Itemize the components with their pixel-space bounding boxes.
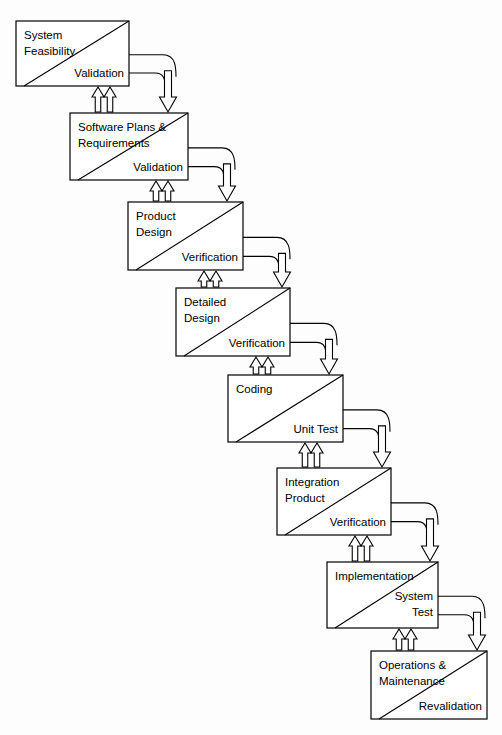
feedback-up-arrow-1 — [299, 443, 311, 467]
stage-gate-label: Validation — [133, 161, 183, 173]
feedback-up-arrow-2 — [361, 536, 373, 561]
stage-gate-label: Validation — [74, 67, 124, 79]
forward-down-arrow — [422, 519, 439, 561]
stage-box-detailed-design[interactable]: DetailedDesignVerification — [176, 288, 290, 356]
forward-curve-lower — [391, 522, 427, 536]
stage-name-line: Coding — [236, 383, 272, 395]
stage-gate-label: Verification — [182, 251, 238, 263]
stage-name-line: System — [24, 29, 62, 41]
forward-curve-lower — [188, 167, 224, 181]
stage-box-integration-product[interactable]: IntegrationProductVerification — [277, 468, 391, 535]
stage-name-line: Integration — [285, 476, 339, 488]
forward-curve-lower — [343, 429, 379, 443]
stage-name-line: Implementation — [335, 570, 414, 582]
feedback-up-arrow-1 — [150, 181, 162, 201]
forward-curve-lower — [243, 256, 279, 270]
stage-gate-label: Verification — [330, 516, 386, 528]
stage-name-line: Design — [136, 226, 172, 238]
forward-down-arrow — [469, 612, 486, 650]
stage-name-line: Detailed — [184, 296, 226, 308]
stage-name-line: Maintenance — [379, 675, 445, 687]
stage-name-line: Software Plans & — [78, 121, 167, 133]
forward-curve-lower — [438, 615, 474, 629]
stage-box-operations-maintenance[interactable]: Operations &MaintenanceRevalidation — [371, 651, 487, 719]
stage-name-line: Product — [136, 210, 176, 222]
stage-name-line: Design — [184, 312, 220, 324]
stage-box-coding[interactable]: CodingUnit Test — [228, 375, 343, 442]
stage-gate-label: Unit Test — [293, 423, 338, 435]
stage-gate-label-line: System — [395, 590, 433, 602]
feedback-up-arrow-2 — [162, 181, 174, 201]
feedback-up-arrow-1 — [198, 271, 210, 287]
stage-name-line: Requirements — [78, 137, 150, 149]
forward-curve-lower — [290, 342, 326, 356]
feedback-up-arrow-1 — [92, 87, 104, 112]
stage-gate-label: Revalidation — [419, 700, 482, 712]
forward-curve-lower — [129, 73, 165, 87]
feedback-up-arrow-1 — [393, 629, 405, 650]
stage-box-system-feasibility[interactable]: SystemFeasibilityValidation — [16, 21, 129, 86]
stage-gate-label-line: Test — [412, 606, 434, 618]
stage-name-line: Operations & — [379, 659, 446, 671]
waterfall-diagram: SystemFeasibilityValidationSoftware Plan… — [0, 0, 502, 735]
stage-gate-label: Verification — [229, 337, 285, 349]
feedback-up-arrow-2 — [104, 87, 116, 112]
feedback-up-arrow-2 — [210, 271, 222, 287]
feedback-up-arrow-1 — [250, 357, 262, 374]
forward-down-arrow — [160, 71, 177, 112]
forward-down-arrow — [374, 426, 391, 467]
stage-box-implementation[interactable]: ImplementationSystemTest — [327, 562, 438, 628]
feedback-up-arrow-2 — [405, 629, 417, 650]
feedback-up-arrow-2 — [311, 443, 323, 467]
stage-box-product-design[interactable]: ProductDesignVerification — [128, 202, 243, 270]
stage-box-software-plans-requirements[interactable]: Software Plans &RequirementsValidation — [70, 113, 188, 180]
feedback-up-arrow-1 — [349, 536, 361, 561]
feedback-up-arrow-2 — [262, 357, 274, 374]
stage-name-line: Feasibility — [24, 45, 75, 57]
diagram-canvas: SystemFeasibilityValidationSoftware Plan… — [0, 0, 502, 735]
stage-name-line: Product — [285, 492, 325, 504]
